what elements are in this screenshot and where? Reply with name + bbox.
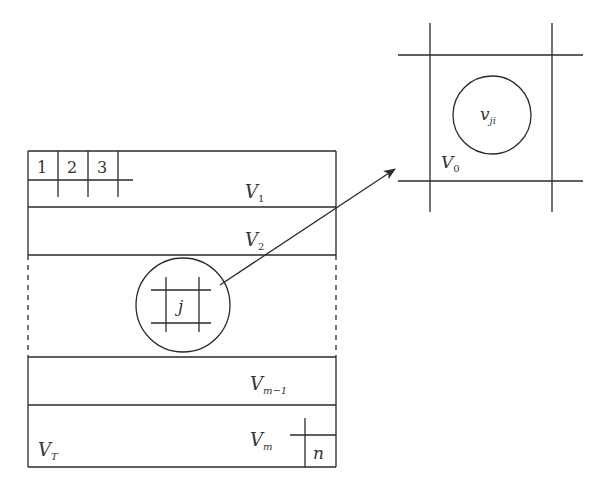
cell-3-label: 3 xyxy=(97,158,107,177)
main-grid: 1 2 3 n V1 V2 Vm−1 Vm VT j xyxy=(28,151,336,467)
band-vm1-label: Vm−1 xyxy=(250,373,287,396)
cell-2-label: 2 xyxy=(67,158,77,177)
domain-vt-label: VT xyxy=(38,439,59,462)
top-cells: 1 2 3 xyxy=(28,151,133,197)
band-vm-label: Vm xyxy=(250,429,272,452)
band-v2-label: V2 xyxy=(245,229,264,252)
discretization-diagram: 1 2 3 n V1 V2 Vm−1 Vm VT j xyxy=(0,0,601,487)
band-v1-label: V1 xyxy=(245,181,264,204)
zoom-circle: j xyxy=(136,258,230,352)
cell-1-label: 1 xyxy=(37,158,47,177)
cell-j-label: j xyxy=(174,296,184,316)
cell-v0-label: V0 xyxy=(441,152,460,174)
node-vji-label: vji xyxy=(480,104,496,126)
cell-n-label: n xyxy=(313,443,324,463)
detail-view: vji V0 xyxy=(398,23,583,212)
last-cell: n xyxy=(290,418,336,467)
